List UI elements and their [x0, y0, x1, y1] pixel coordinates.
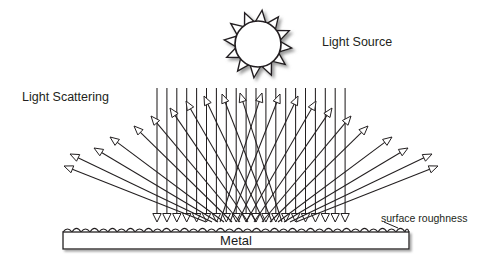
scattered-ray-right-0-arrowhead [428, 166, 438, 173]
scattered-ray-left-9-arrowhead [222, 94, 229, 104]
incident-ray-17 [321, 88, 329, 222]
scattered-rays-right-group [220, 93, 438, 222]
sun-group [224, 10, 292, 78]
sun-disc [235, 21, 281, 67]
scattered-ray-right-8-arrowhead [291, 96, 298, 106]
scattered-ray-left-4-line [140, 132, 232, 222]
scattered-ray-left-0 [64, 166, 206, 222]
incident-ray-6 [212, 88, 220, 222]
scattered-ray-right-1-arrowhead [422, 154, 432, 161]
incident-ray-18-arrowhead [331, 214, 339, 223]
scattered-ray-right-4-line [270, 132, 362, 222]
incident-rays-group [153, 88, 349, 222]
scattered-ray-right-7-arrowhead [308, 101, 316, 111]
scattered-ray-left-1 [70, 154, 212, 222]
scattered-ray-left-10-arrowhead [239, 93, 246, 103]
incident-ray-8 [232, 88, 240, 222]
incident-ray-0-arrowhead [153, 214, 161, 223]
scattered-ray-right-10-arrowhead [256, 93, 263, 103]
scattered-ray-right-3-arrowhead [383, 137, 392, 145]
scattered-ray-right-3-line [278, 142, 385, 222]
label-light-scattering: Light Scattering [22, 90, 109, 104]
incident-ray-19-arrowhead [341, 214, 349, 223]
incident-ray-2-arrowhead [173, 214, 181, 223]
incident-ray-7-arrowhead [222, 214, 230, 223]
scattered-ray-right-5-arrowhead [342, 116, 351, 125]
scattered-ray-left-2-arrowhead [94, 148, 104, 156]
incident-ray-12-arrowhead [272, 214, 280, 223]
label-surface-roughness: surface roughness [381, 212, 467, 224]
scattered-ray-right-9-arrowhead [273, 94, 280, 104]
scattered-ray-right-2-arrowhead [398, 148, 408, 156]
scattered-ray-left-7-arrowhead [186, 101, 194, 111]
scattered-ray-left-5-arrowhead [151, 116, 160, 125]
scattered-ray-left-3-arrowhead [110, 137, 119, 145]
scattered-ray-left-0-arrowhead [64, 166, 74, 173]
incident-ray-13 [282, 88, 290, 222]
incident-ray-2 [173, 88, 181, 222]
scattered-ray-left-1-line [77, 158, 212, 222]
light-scattering-diagram: Light Source Light Scattering surface ro… [0, 0, 500, 261]
scattered-rays-left-group [64, 93, 282, 222]
incident-ray-1-arrowhead [163, 214, 171, 223]
scattered-ray-left-3-line [117, 142, 224, 222]
incident-ray-17-arrowhead [321, 214, 329, 223]
incident-ray-11 [262, 88, 270, 222]
scattered-ray-left-8-arrowhead [204, 96, 211, 106]
sun-shape [224, 10, 292, 78]
label-metal: Metal [63, 232, 409, 249]
label-light-source: Light Source [322, 35, 392, 49]
scattered-ray-left-1-arrowhead [70, 154, 80, 161]
